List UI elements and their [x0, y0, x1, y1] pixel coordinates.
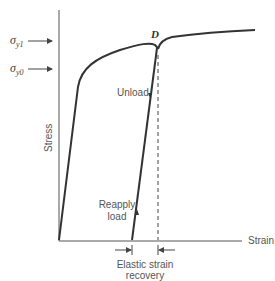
- elastic-line2: recovery: [105, 271, 185, 281]
- point-d-label: D: [151, 28, 159, 40]
- reapply-line1: Reapply: [97, 200, 137, 210]
- y-axis-label: Stress: [43, 124, 54, 152]
- elastic-strain-recovery-label: Elastic strain recovery: [105, 260, 185, 281]
- reapply-load-label: Reapply load: [97, 200, 137, 222]
- reloading-curve: [158, 30, 255, 49]
- sigma-subscript: y1: [16, 40, 24, 49]
- x-axis-label: Strain: [248, 236, 274, 246]
- sigma-y0-label: σy0: [10, 62, 23, 77]
- sigma-subscript: y0: [16, 68, 24, 77]
- unload-label: Unload: [117, 88, 149, 98]
- elastic-line1: Elastic strain: [105, 260, 185, 270]
- sigma-y1-label: σy1: [10, 34, 23, 49]
- reapply-line2: load: [97, 212, 137, 222]
